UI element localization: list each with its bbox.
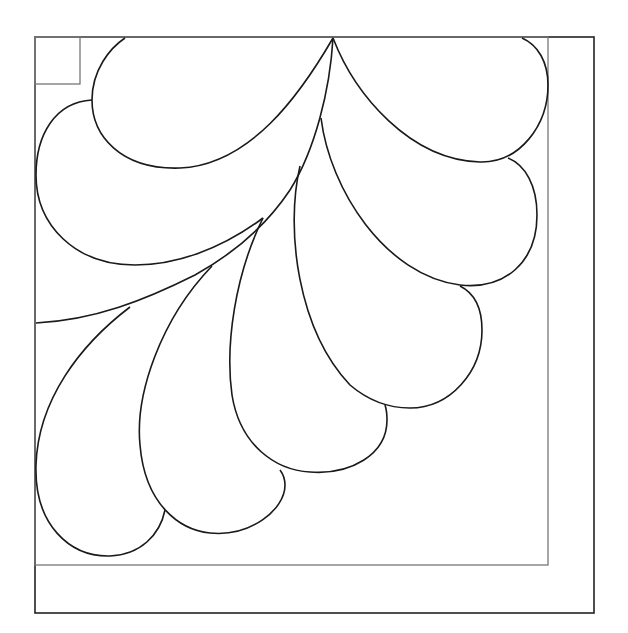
pattern-canvas xyxy=(0,0,628,633)
background xyxy=(0,0,628,633)
feather-pattern-drawing xyxy=(0,0,628,633)
